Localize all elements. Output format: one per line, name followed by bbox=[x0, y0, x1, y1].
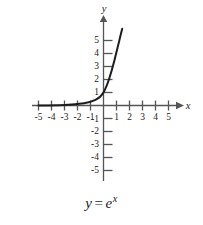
figure-caption: y=ex bbox=[0, 193, 203, 212]
label-x-neg-4: -4 bbox=[48, 112, 56, 122]
y-axis-labels-negative: -1 -2 -3 -4 -5 bbox=[91, 114, 99, 175]
label-y-pos-1: 1 bbox=[94, 87, 99, 97]
label-y-neg-1: -1 bbox=[91, 114, 99, 124]
caption-equals-sign: = bbox=[93, 195, 106, 211]
label-y-pos-3: 3 bbox=[94, 61, 99, 71]
x-axis-labels-positive: 1 2 3 4 5 bbox=[114, 112, 171, 122]
plot-area: -5 -4 -3 -2 -1 1 2 3 4 5 1 2 3 4 5 bbox=[0, 0, 203, 192]
caption-base-e: e bbox=[105, 195, 112, 211]
label-y-neg-3: -3 bbox=[91, 139, 99, 149]
y-axis-ticks-negative bbox=[104, 119, 113, 171]
label-y-pos-2: 2 bbox=[94, 74, 99, 84]
exponential-graph-figure: -5 -4 -3 -2 -1 1 2 3 4 5 1 2 3 4 5 bbox=[0, 0, 203, 225]
y-axis-labels-positive: 1 2 3 4 5 bbox=[94, 35, 99, 97]
label-x-pos-4: 4 bbox=[153, 112, 158, 122]
label-y-pos-5: 5 bbox=[94, 35, 99, 45]
coordinate-plane-svg: -5 -4 -3 -2 -1 1 2 3 4 5 1 2 3 4 5 bbox=[0, 0, 203, 192]
label-x-pos-1: 1 bbox=[114, 112, 119, 122]
label-x-pos-5: 5 bbox=[166, 112, 171, 122]
y-axis-name-label: y bbox=[101, 3, 107, 14]
label-x-neg-5: -5 bbox=[35, 112, 43, 122]
x-axis-arrow-icon bbox=[176, 102, 184, 109]
label-x-neg-2: -2 bbox=[74, 112, 82, 122]
label-x-pos-3: 3 bbox=[140, 112, 145, 122]
label-y-pos-4: 4 bbox=[94, 48, 99, 58]
label-x-pos-2: 2 bbox=[127, 112, 132, 122]
caption-exponent-x: x bbox=[113, 193, 118, 204]
y-axis-arrow-icon bbox=[100, 15, 107, 22]
label-x-neg-3: -3 bbox=[61, 112, 69, 122]
x-axis-name-label: x bbox=[185, 100, 191, 111]
label-y-neg-4: -4 bbox=[91, 152, 99, 162]
x-axis-labels-negative: -5 -4 -3 -2 -1 bbox=[35, 112, 95, 122]
label-y-neg-5: -5 bbox=[91, 165, 99, 175]
caption-variable-y: y bbox=[85, 195, 92, 211]
label-y-neg-2: -2 bbox=[91, 126, 99, 136]
